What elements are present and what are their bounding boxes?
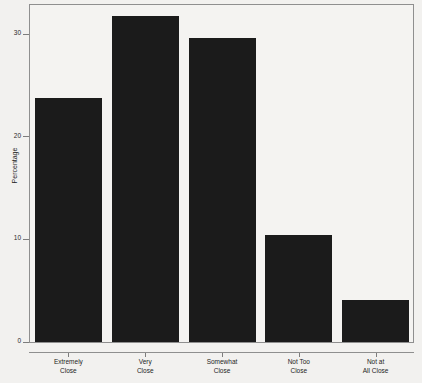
bar [342, 300, 409, 341]
y-axis-tick [23, 34, 29, 35]
x-axis-tick [145, 353, 146, 357]
y-axis-tick [23, 136, 29, 137]
y-axis-title: Percentage [11, 131, 18, 201]
x-axis-tick-label-line: Not at [331, 358, 421, 367]
x-axis-tick-label: Not atAll Close [331, 358, 421, 375]
y-axis-tick [23, 342, 29, 343]
x-axis-tick [299, 353, 300, 357]
y-axis-tick-label: 0 [0, 338, 21, 345]
y-axis-tick [23, 239, 29, 240]
y-axis-tick-label: 30 [0, 30, 21, 37]
chart-root: Percentage 0102030ExtremelyCloseVeryClos… [0, 0, 422, 383]
x-axis-tick [222, 353, 223, 357]
bar [189, 38, 256, 342]
y-axis-tick-label: 20 [0, 133, 21, 140]
x-axis-tick-label-line: All Close [331, 367, 421, 376]
bar [112, 16, 179, 341]
y-axis-tick-label: 10 [0, 235, 21, 242]
plot-area [30, 5, 414, 343]
x-axis-tick [376, 353, 377, 357]
bar [35, 98, 102, 341]
x-axis-tick [68, 353, 69, 357]
bar [265, 235, 332, 342]
